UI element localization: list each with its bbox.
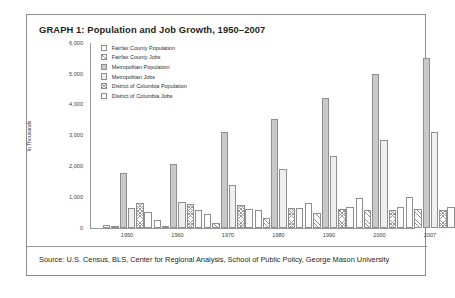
bar[interactable] xyxy=(356,198,363,228)
y-axis-label: In Thousands xyxy=(26,121,32,152)
divider xyxy=(27,246,427,247)
bar[interactable] xyxy=(103,225,110,228)
source-note: Source: U.S. Census, BLS, Center for Reg… xyxy=(39,255,389,264)
bar[interactable] xyxy=(397,207,404,228)
legend-swatch-icon xyxy=(101,83,107,89)
y-axis-line xyxy=(90,43,91,228)
bar[interactable] xyxy=(423,58,430,228)
bar[interactable] xyxy=(447,207,454,228)
legend-swatch-icon xyxy=(101,45,107,51)
chart-legend: Fairfax County PopulationFairfax County … xyxy=(101,43,187,101)
legend-item[interactable]: Fairfax County Jobs xyxy=(101,53,187,63)
y-tick-label: 0 xyxy=(41,225,83,231)
legend-item[interactable]: Metropolitan Jobs xyxy=(101,72,187,82)
bar[interactable] xyxy=(296,208,303,228)
legend-swatch-icon xyxy=(101,64,107,70)
y-tick-label: 4,000 xyxy=(41,101,83,107)
x-axis-line xyxy=(90,228,415,229)
bar[interactable] xyxy=(431,132,438,228)
bar[interactable] xyxy=(144,212,151,228)
legend-swatch-icon xyxy=(101,54,107,60)
bar[interactable] xyxy=(313,213,320,228)
bar[interactable] xyxy=(380,140,387,228)
legend-item-label: District of Columbia Jobs xyxy=(112,93,173,99)
bar[interactable] xyxy=(128,208,135,228)
bar[interactable] xyxy=(288,208,295,228)
bar[interactable] xyxy=(364,210,371,228)
bar[interactable] xyxy=(389,210,396,228)
bar[interactable] xyxy=(414,209,421,228)
y-tick-label: 3,000 xyxy=(41,132,83,138)
bar[interactable] xyxy=(372,74,379,228)
bar[interactable] xyxy=(170,164,177,228)
y-tick-label: 1,000 xyxy=(41,194,83,200)
bar-group xyxy=(255,119,304,228)
legend-item-label: Metropolitan Population xyxy=(112,64,170,70)
legend-swatch-icon xyxy=(101,93,107,99)
bar[interactable] xyxy=(346,207,353,228)
bar[interactable] xyxy=(305,203,312,228)
plot-area: In Thousands 01,0002,0003,0004,0005,0006… xyxy=(27,41,427,246)
bar-group xyxy=(356,74,405,228)
bar[interactable] xyxy=(322,98,329,228)
legend-item-label: Fairfax County Jobs xyxy=(112,54,161,60)
legend-item[interactable]: Metropolitan Population xyxy=(101,62,187,72)
bar[interactable] xyxy=(178,202,185,228)
legend-item-label: Fairfax County Population xyxy=(112,45,175,51)
bar[interactable] xyxy=(255,210,262,229)
legend-item[interactable]: District of Columbia Jobs xyxy=(101,91,187,101)
bar[interactable] xyxy=(338,209,345,228)
y-tick-label: 2,000 xyxy=(41,163,83,169)
bar-group xyxy=(204,132,253,228)
bar[interactable] xyxy=(439,210,446,228)
bar[interactable] xyxy=(279,169,286,228)
legend-item[interactable]: District of Columbia Population xyxy=(101,81,187,91)
bar-group xyxy=(406,58,455,228)
bar[interactable] xyxy=(330,156,337,228)
bar[interactable] xyxy=(111,226,118,228)
bar-group xyxy=(305,98,354,228)
bar[interactable] xyxy=(187,204,194,228)
x-tick-label: 2007 xyxy=(400,232,455,238)
legend-item[interactable]: Fairfax County Population xyxy=(101,43,187,53)
legend-item-label: Metropolitan Jobs xyxy=(112,74,155,80)
bar[interactable] xyxy=(263,218,270,228)
bar[interactable] xyxy=(136,203,143,228)
legend-item-label: District of Columbia Population xyxy=(112,83,187,89)
chart-frame: GRAPH 1: Population and Job Growth, 1950… xyxy=(26,14,426,276)
bar[interactable] xyxy=(271,119,278,228)
bar-group xyxy=(103,173,152,229)
bar-group xyxy=(154,164,203,228)
bar[interactable] xyxy=(237,205,244,228)
bar[interactable] xyxy=(195,210,202,229)
legend-swatch-icon xyxy=(101,73,107,79)
bar[interactable] xyxy=(204,214,211,228)
bar[interactable] xyxy=(212,223,219,228)
bar[interactable] xyxy=(120,173,127,229)
y-tick-label: 6,000 xyxy=(41,40,83,46)
y-tick-label: 5,000 xyxy=(41,71,83,77)
page-title: GRAPH 1: Population and Job Growth, 1950… xyxy=(39,24,265,35)
bar[interactable] xyxy=(245,209,252,228)
bar[interactable] xyxy=(154,220,161,228)
bar[interactable] xyxy=(229,185,236,228)
bar[interactable] xyxy=(221,132,228,228)
bar[interactable] xyxy=(406,197,413,228)
bar[interactable] xyxy=(162,226,169,228)
